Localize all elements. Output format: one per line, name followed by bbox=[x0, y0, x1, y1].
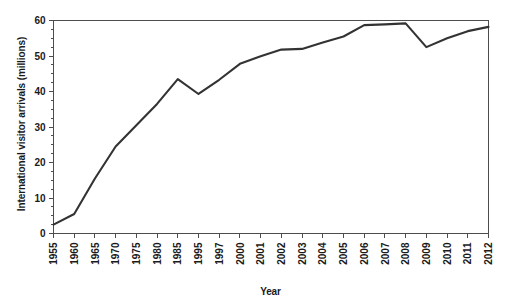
y-tick-label: 50 bbox=[34, 51, 46, 62]
x-tick-label: 1960 bbox=[69, 242, 80, 265]
y-tick-label: 30 bbox=[34, 122, 46, 133]
x-tick-label: 2001 bbox=[255, 242, 266, 265]
x-tick-label: 2010 bbox=[442, 242, 453, 265]
data-line-path bbox=[54, 23, 489, 224]
y-axis-tick-marks bbox=[49, 21, 54, 234]
y-tick-label: 20 bbox=[34, 157, 46, 168]
x-tick-label: 1965 bbox=[90, 242, 101, 265]
x-tick-label: 2002 bbox=[276, 242, 287, 265]
y-tick-label: 10 bbox=[34, 193, 46, 204]
x-tick-label: 2012 bbox=[483, 242, 494, 265]
x-tick-label: 1975 bbox=[131, 242, 142, 265]
x-tick-label: 1970 bbox=[110, 242, 121, 265]
y-tick-label: 60 bbox=[34, 15, 46, 26]
x-tick-label: 1955 bbox=[48, 242, 59, 265]
y-tick-label: 40 bbox=[34, 86, 46, 97]
y-axis-tick-labels: 0102030405060 bbox=[34, 15, 46, 239]
x-tick-label: 2006 bbox=[359, 242, 370, 265]
x-tick-label: 1997 bbox=[214, 242, 225, 265]
x-axis-tick-marks bbox=[54, 234, 489, 239]
x-axis-tick-labels: 1955196019651970197519801985199519972000… bbox=[48, 242, 494, 265]
x-tick-label: 2005 bbox=[338, 242, 349, 265]
x-tick-label: 2004 bbox=[317, 242, 328, 265]
x-tick-label: 2003 bbox=[297, 242, 308, 265]
x-tick-label: 1980 bbox=[152, 242, 163, 265]
plot-area: 0102030405060 19551960196519701975198019… bbox=[0, 0, 508, 308]
y-tick-label: 0 bbox=[40, 228, 46, 239]
x-tick-label: 2011 bbox=[462, 242, 473, 264]
x-tick-label: 2008 bbox=[400, 242, 411, 265]
x-tick-label: 2007 bbox=[380, 242, 391, 265]
data-series-line bbox=[54, 23, 489, 224]
x-tick-label: 2000 bbox=[235, 242, 246, 265]
x-tick-label: 1985 bbox=[172, 242, 183, 265]
line-chart-figure: International visitor arrivals (millions… bbox=[0, 0, 508, 308]
x-tick-label: 1995 bbox=[193, 242, 204, 265]
x-tick-label: 2009 bbox=[421, 242, 432, 265]
